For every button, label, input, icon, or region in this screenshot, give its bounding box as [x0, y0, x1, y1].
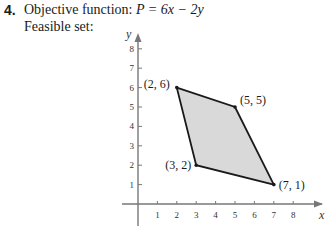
y-tick-label: 2 — [130, 160, 135, 170]
y-tick-label: 7 — [130, 63, 135, 73]
x-tick-label: 7 — [272, 210, 277, 220]
vertex-label: (2, 6) — [144, 77, 170, 91]
y-tick-label: 3 — [130, 141, 135, 151]
x-tick-label: 1 — [155, 210, 160, 220]
y-tick-label: 4 — [130, 121, 135, 131]
x-tick-label: 5 — [233, 210, 238, 220]
vertex-label: (7, 1) — [279, 178, 305, 192]
vertex-point — [233, 105, 237, 109]
vertex-label: (5, 5) — [240, 93, 266, 107]
vertex-point — [175, 86, 179, 90]
y-tick-label: 1 — [130, 180, 135, 190]
feasible-set-graph: 1234567812345678xy(2, 6)(5, 5)(7, 1)(3, … — [0, 0, 332, 233]
x-tick-label: 3 — [194, 210, 199, 220]
x-tick-label: 2 — [175, 210, 180, 220]
y-tick-label: 8 — [130, 44, 135, 54]
vertex-label: (3, 2) — [165, 158, 191, 172]
x-axis-arrow-icon — [314, 201, 323, 208]
vertex-point — [272, 183, 276, 187]
y-axis-label: y — [125, 27, 132, 41]
y-tick-label: 6 — [130, 83, 135, 93]
y-axis-arrow-icon — [135, 33, 142, 42]
x-tick-label: 4 — [213, 210, 218, 220]
x-tick-label: 8 — [291, 210, 296, 220]
y-tick-label: 5 — [130, 102, 135, 112]
x-axis-label: x — [318, 208, 325, 222]
vertex-point — [194, 163, 198, 167]
x-tick-label: 6 — [252, 210, 257, 220]
